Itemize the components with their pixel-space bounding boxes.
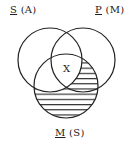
venn-diagram: X: [0, 0, 128, 146]
x-mark: X: [63, 63, 71, 74]
